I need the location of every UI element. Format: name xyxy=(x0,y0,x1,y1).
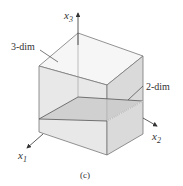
x3-label: x3 xyxy=(63,9,73,24)
x1-axis xyxy=(27,134,43,148)
plane-label: 2-dim xyxy=(146,81,170,92)
cube-diagram: x3 3-dim 2-dim x2 x1 (c) xyxy=(0,0,183,186)
figure-caption: (c) xyxy=(80,170,90,180)
x1-label: x1 xyxy=(17,149,27,164)
x2-label: x2 xyxy=(151,130,161,145)
volume-label: 3-dim xyxy=(11,41,35,52)
x2-axis xyxy=(143,118,157,126)
